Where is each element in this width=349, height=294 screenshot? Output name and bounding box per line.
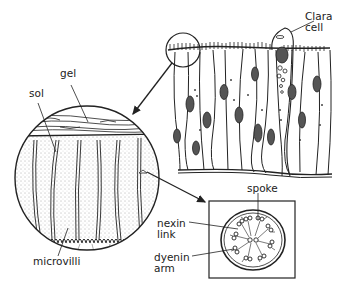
diagram-canvas (0, 0, 349, 294)
zoom-arrow (133, 63, 172, 114)
magnified-view (10, 106, 170, 255)
label-spoke: spoke (247, 183, 278, 194)
label-microvilli: microvilli (33, 256, 80, 267)
label-sol: sol (29, 88, 44, 99)
cilium-cross-section (209, 201, 295, 278)
label-clara-cell: Clara cell (305, 11, 332, 33)
label-gel: gel (60, 68, 76, 79)
label-dyenin-arm: dyenin arm (154, 252, 190, 274)
label-nexin-link: nexin link (157, 218, 186, 240)
epithelium-tissue (168, 28, 332, 178)
